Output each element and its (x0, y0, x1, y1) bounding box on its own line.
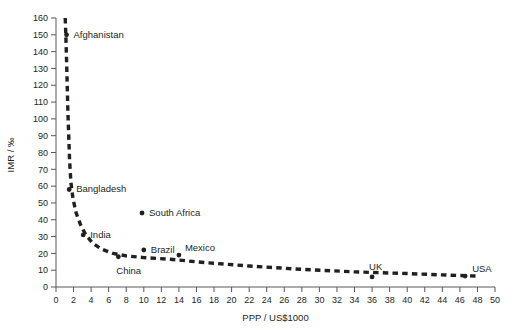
x-tick-label: 4 (89, 295, 94, 305)
x-tick-label: 0 (53, 295, 58, 305)
y-tick-label: 130 (33, 64, 48, 74)
point-marker (141, 248, 146, 253)
point-marker (67, 187, 72, 192)
point-label: South Africa (149, 207, 201, 218)
point-marker (370, 275, 375, 280)
x-tick-label: 22 (244, 295, 254, 305)
y-tick-label: 160 (33, 13, 48, 23)
x-tick-label: 14 (174, 295, 184, 305)
x-tick-label: 10 (139, 295, 149, 305)
x-tick-label: 8 (124, 295, 129, 305)
point-label: Brazil (151, 244, 175, 255)
y-axis-title: IMR / ‰ (5, 137, 16, 172)
data-point-bangladesh: Bangladesh (67, 183, 127, 194)
y-tick-label: 150 (33, 30, 48, 40)
x-axis: 0246810121416182022242628303234363840424… (53, 287, 500, 305)
y-axis: 0102030405060708090100110120130140150160 (33, 13, 56, 292)
point-marker (140, 211, 145, 216)
scatter-chart: 0102030405060708090100110120130140150160… (0, 0, 517, 330)
x-tick-label: 44 (437, 295, 447, 305)
point-marker (81, 232, 86, 237)
point-label: Afghanistan (74, 29, 124, 40)
x-tick-label: 48 (472, 295, 482, 305)
data-point-uk: UK (369, 261, 383, 279)
x-tick-label: 18 (209, 295, 219, 305)
data-points: AfghanistanBangladeshIndiaChinaSouth Afr… (64, 29, 492, 280)
data-point-south-africa: South Africa (140, 207, 201, 218)
x-tick-label: 36 (367, 295, 377, 305)
x-tick-label: 32 (332, 295, 342, 305)
y-tick-label: 90 (38, 131, 48, 141)
x-tick-label: 30 (314, 295, 324, 305)
x-tick-label: 38 (385, 295, 395, 305)
x-tick-label: 26 (279, 295, 289, 305)
chart-container: 0102030405060708090100110120130140150160… (0, 0, 517, 330)
y-tick-label: 40 (38, 215, 48, 225)
trend-curve (65, 18, 477, 276)
x-tick-label: 34 (350, 295, 360, 305)
x-tick-label: 2 (71, 295, 76, 305)
x-tick-label: 24 (262, 295, 272, 305)
x-tick-label: 16 (191, 295, 201, 305)
y-tick-label: 120 (33, 80, 48, 90)
point-marker (116, 254, 121, 259)
x-tick-label: 40 (402, 295, 412, 305)
y-tick-label: 30 (38, 232, 48, 242)
data-point-afghanistan: Afghanistan (64, 29, 124, 40)
y-tick-label: 140 (33, 47, 48, 57)
y-tick-label: 100 (33, 114, 48, 124)
x-tick-label: 20 (227, 295, 237, 305)
x-axis-title: PPP / US$1000 (242, 312, 308, 323)
point-label: USA (472, 263, 492, 274)
point-marker (463, 274, 468, 279)
data-point-china: China (116, 254, 142, 275)
y-tick-label: 20 (38, 249, 48, 259)
data-point-brazil: Brazil (141, 244, 174, 255)
y-tick-label: 10 (38, 265, 48, 275)
x-tick-label: 42 (420, 295, 430, 305)
y-tick-label: 50 (38, 198, 48, 208)
data-point-mexico: Mexico (177, 242, 215, 257)
point-label: Mexico (185, 242, 215, 253)
y-tick-label: 70 (38, 165, 48, 175)
x-tick-label: 50 (490, 295, 500, 305)
x-tick-label: 46 (455, 295, 465, 305)
y-tick-label: 80 (38, 148, 48, 158)
x-tick-label: 12 (156, 295, 166, 305)
point-label: India (90, 229, 111, 240)
data-point-usa: USA (463, 263, 493, 278)
y-tick-label: 0 (43, 282, 48, 292)
x-tick-label: 6 (106, 295, 111, 305)
point-label: Bangladesh (76, 183, 126, 194)
point-marker (177, 253, 182, 258)
point-marker (64, 32, 69, 37)
point-label: UK (369, 261, 383, 272)
y-tick-label: 110 (34, 97, 48, 107)
y-tick-label: 60 (38, 181, 48, 191)
point-label: China (116, 265, 142, 276)
x-tick-label: 28 (297, 295, 307, 305)
